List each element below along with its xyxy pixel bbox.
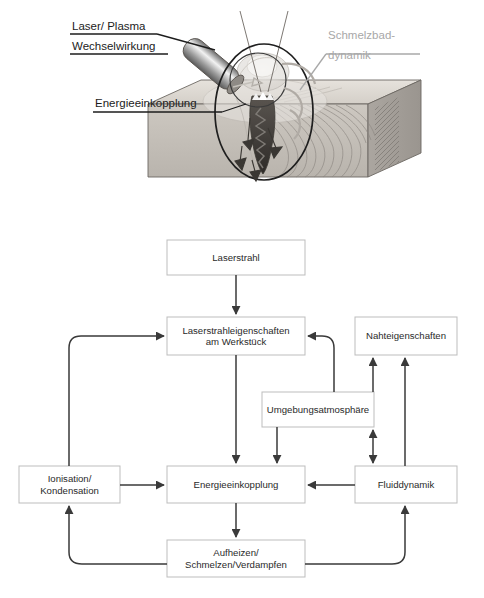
node-ionisation-kondensation [19,466,120,503]
process-flowchart [0,0,484,598]
edge-aufheizen-to-ionisation [69,506,167,564]
node-aufheizen [167,540,305,577]
node-fluiddynamik [355,466,457,503]
node-energieeinkopplung [167,466,305,503]
flowchart-boxes [19,240,457,577]
figure-root: Laser/ Plasma Wechselwirkung Schmelzbad-… [0,0,484,598]
edge-aufheizen-to-fluiddynamik [305,506,405,564]
edge-umgebungsatmosphaere-to-laserstrahleigenschaften [308,336,334,392]
node-nahteigenschaften [355,317,457,355]
node-umgebungsatmosphaere [262,392,374,427]
node-laserstrahleigenschaften [167,317,305,355]
edge-ionisation-to-laserstrahleigenschaften [69,336,164,466]
node-laserstrahl [167,240,305,275]
